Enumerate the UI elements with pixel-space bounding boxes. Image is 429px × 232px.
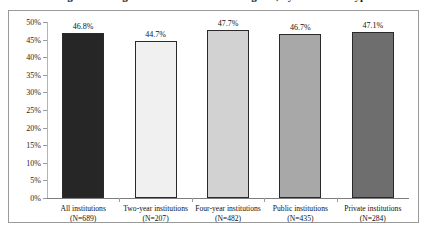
y-axis-tick xyxy=(43,22,47,23)
y-axis-tick xyxy=(43,92,47,93)
bar-group: 47.7% xyxy=(207,22,249,198)
category-label-line1: Public institutions xyxy=(273,204,328,213)
x-axis-separator xyxy=(264,198,265,202)
y-axis-tick xyxy=(43,163,47,164)
y-axis-label: 15% xyxy=(13,141,41,150)
y-axis-line xyxy=(47,22,48,198)
x-axis-separator xyxy=(192,198,193,202)
bar-value-label: 47.7% xyxy=(218,19,239,28)
x-axis-category-label: Private institutions(N=284) xyxy=(337,204,409,224)
y-axis-tick xyxy=(43,128,47,129)
chart-title-cropped: Percentage of Undergraduate Students Rec… xyxy=(0,0,429,7)
bar[interactable] xyxy=(207,30,249,198)
bar[interactable] xyxy=(279,34,321,198)
y-axis-tick xyxy=(43,110,47,111)
bar[interactable] xyxy=(135,41,177,198)
category-label-line1: Four-year institutions xyxy=(195,204,260,213)
bar[interactable] xyxy=(62,33,104,198)
bar[interactable] xyxy=(352,32,394,198)
category-label-line2: (N=284) xyxy=(337,214,409,224)
x-axis-category-label: Four-year institutions(N=482) xyxy=(192,204,264,224)
category-label-line2: (N=482) xyxy=(192,214,264,224)
category-label-line2: (N=435) xyxy=(264,214,336,224)
y-axis-tick xyxy=(43,198,47,199)
y-axis-label: 20% xyxy=(13,123,41,132)
x-axis-separator xyxy=(119,198,120,202)
y-axis-tick xyxy=(43,145,47,146)
x-axis-line xyxy=(47,198,409,199)
category-label-line2: (N=207) xyxy=(119,214,191,224)
category-label-line1: Two-year institutions xyxy=(123,204,188,213)
y-axis-label: 25% xyxy=(13,106,41,115)
chart-frame: 50%45%40%35%30%25%20%15%10%5%0% 46.8%44.… xyxy=(8,10,419,223)
y-axis-tick xyxy=(43,75,47,76)
y-axis-label: 35% xyxy=(13,70,41,79)
bar-group: 46.7% xyxy=(279,22,321,198)
x-axis-separator xyxy=(337,198,338,202)
y-axis-tick xyxy=(43,180,47,181)
y-axis-tick xyxy=(43,40,47,41)
y-axis-tick xyxy=(43,57,47,58)
category-label-line1: Private institutions xyxy=(344,204,401,213)
y-axis-label: 45% xyxy=(13,35,41,44)
chart-title-text: Percentage of Undergraduate Students Rec… xyxy=(26,0,371,2)
x-axis-category-label: Two-year institutions(N=207) xyxy=(119,204,191,224)
y-axis-label: 0% xyxy=(13,194,41,203)
bar-value-label: 47.1% xyxy=(362,21,383,30)
y-axis-label: 30% xyxy=(13,88,41,97)
category-label-line1: All institutions (N=689) xyxy=(61,204,106,223)
x-axis-category-label: Public institutions(N=435) xyxy=(264,204,336,224)
bar-value-label: 44.7% xyxy=(145,30,166,39)
x-axis-category-label: All institutions (N=689) xyxy=(47,204,119,224)
bar-group: 47.1% xyxy=(352,22,394,198)
bar-group: 46.8% xyxy=(62,22,104,198)
bar-value-label: 46.8% xyxy=(73,22,94,31)
y-axis-label: 5% xyxy=(13,176,41,185)
y-axis-label: 10% xyxy=(13,158,41,167)
bar-value-label: 46.7% xyxy=(290,23,311,32)
plot-area: 50%45%40%35%30%25%20%15%10%5%0% 46.8%44.… xyxy=(47,22,409,198)
bar-group: 44.7% xyxy=(135,22,177,198)
y-axis-label: 40% xyxy=(13,53,41,62)
y-axis-label: 50% xyxy=(13,18,41,27)
